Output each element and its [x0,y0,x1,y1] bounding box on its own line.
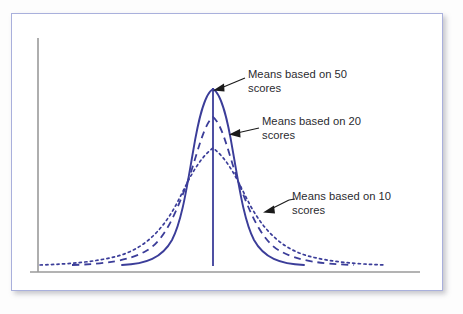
callout-label-50-scores: Means based on 50 scores [248,68,347,95]
callout-leader-10-scores [263,199,295,214]
callout-label-20-scores: Means based on 20 scores [262,115,361,142]
sampling-distribution-chart [0,0,463,314]
callout-leader-20-scores [229,128,259,138]
callout-leader-50-scores [213,78,245,92]
callout-label-10-scores: Means based on 10 scores [292,190,391,217]
figure-root: Means based on 50 scores Means based on … [0,0,463,314]
